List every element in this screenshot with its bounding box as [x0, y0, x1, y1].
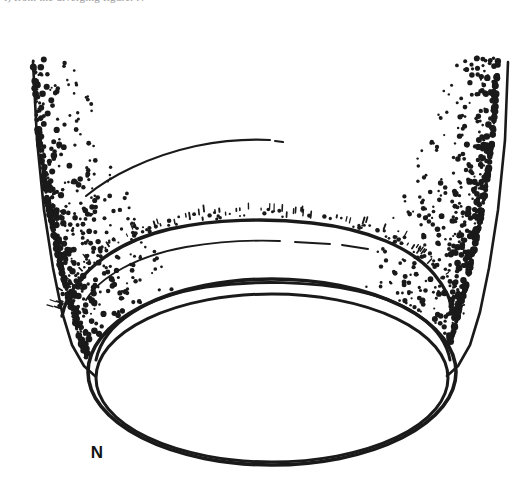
stipple-dot — [489, 125, 494, 130]
stipple-dot — [126, 217, 130, 221]
stipple-dot — [427, 219, 432, 224]
stipple-dot — [78, 340, 85, 347]
stipple-dot — [401, 242, 404, 245]
stipple-dot — [384, 258, 388, 262]
stipple-dot — [435, 148, 438, 151]
stipple-dot — [417, 164, 421, 168]
stipple-dot — [475, 72, 479, 76]
stipple-dot — [93, 230, 97, 234]
stipple-dot — [74, 321, 77, 324]
rim-stipple-dot — [83, 266, 85, 268]
stipple-dot — [481, 64, 484, 67]
stipple-dot — [452, 322, 454, 324]
stipple-dot — [105, 230, 109, 234]
stipple-dot — [67, 83, 70, 86]
stipple-dot — [38, 64, 45, 71]
stipple-dot — [435, 145, 439, 149]
rim-stipple-dot — [141, 230, 145, 234]
stipple-dot — [71, 229, 74, 232]
rim-stipple-dot — [271, 210, 274, 213]
stipple-dot — [61, 243, 64, 246]
stipple-dot — [110, 283, 115, 288]
rim-stipple-dot — [243, 214, 245, 216]
stipple-dot — [491, 63, 497, 69]
stipple-dot — [419, 289, 422, 292]
stipple-dot — [418, 195, 422, 199]
stipple-dot — [447, 269, 449, 271]
rim-tick — [160, 224, 161, 226]
stipple-dot — [483, 186, 487, 190]
stipple-dot — [495, 58, 501, 64]
stipple-dot — [448, 284, 451, 287]
rim-tick — [157, 219, 158, 223]
rim-stipple-dot — [216, 218, 218, 220]
stipple-dot — [96, 254, 99, 257]
stipple-dot — [463, 68, 466, 71]
stipple-dot — [438, 180, 443, 185]
stipple-dot — [435, 227, 441, 233]
stipple-dot — [474, 56, 480, 62]
stipple-dot — [40, 73, 43, 76]
stipple-dot — [467, 80, 472, 85]
stipple-dot — [53, 229, 55, 231]
stipple-dot — [448, 263, 452, 267]
stipple-dot — [62, 262, 65, 265]
stipple-dot — [109, 224, 112, 227]
stipple-dot — [91, 327, 98, 334]
stipple-dot — [439, 116, 443, 120]
stipple-dot — [417, 274, 419, 276]
stipple-dot — [474, 186, 477, 189]
stipple-dot — [65, 287, 69, 291]
stipple-dot — [93, 277, 98, 282]
stipple-dot — [89, 204, 94, 209]
line-drawing-canvas: N — [0, 0, 531, 491]
stipple-dot — [480, 208, 485, 213]
stipple-dot — [74, 295, 76, 297]
rim-tick — [428, 259, 432, 263]
stipple-dot — [485, 175, 490, 180]
stipple-dot — [448, 93, 450, 95]
stipple-dot — [480, 79, 482, 81]
stipple-dot — [82, 315, 85, 318]
stipple-dot — [160, 265, 163, 268]
stipple-dot — [138, 278, 141, 281]
upper-inner-arc-segment — [275, 141, 283, 142]
stipple-dot — [447, 242, 451, 246]
stipple-dot — [41, 121, 47, 127]
stipple-dot — [420, 254, 424, 258]
stipple-dot — [476, 114, 481, 119]
stipple-dot — [480, 214, 482, 216]
rim-tick — [384, 224, 386, 229]
stipple-dot — [54, 235, 56, 237]
stipple-dot — [412, 265, 416, 269]
stipple-dot — [493, 86, 495, 88]
stipple-dot — [58, 265, 64, 271]
stipple-dot — [484, 159, 489, 164]
stipple-dot — [472, 213, 478, 219]
stipple-dot — [153, 250, 157, 254]
stipple-dot — [49, 89, 51, 91]
stipple-layer — [30, 55, 501, 359]
stipple-dot — [54, 127, 60, 133]
stipple-dot — [481, 83, 486, 88]
stipple-dot — [76, 262, 80, 266]
upper-inner-arc-segment — [86, 140, 270, 196]
stipple-dot — [488, 142, 495, 149]
stipple-dot — [151, 272, 153, 274]
rim-stipple-dot — [148, 230, 152, 234]
stipple-dot — [130, 268, 135, 273]
stipple-dot — [479, 109, 483, 113]
stipple-dot — [468, 230, 472, 234]
stipple-dot — [64, 247, 71, 254]
stipple-dot — [91, 250, 95, 254]
stipple-dot — [75, 325, 77, 327]
rim-stipple-dot — [87, 261, 91, 265]
stipple-dot — [455, 269, 459, 273]
stipple-dot — [155, 256, 159, 260]
stipple-dot — [475, 92, 480, 97]
stipple-dot — [410, 297, 412, 299]
stipple-dot — [86, 141, 91, 146]
stipple-dot — [102, 216, 106, 220]
stipple-dot — [93, 172, 96, 175]
rim-stipple-dot — [385, 235, 388, 238]
